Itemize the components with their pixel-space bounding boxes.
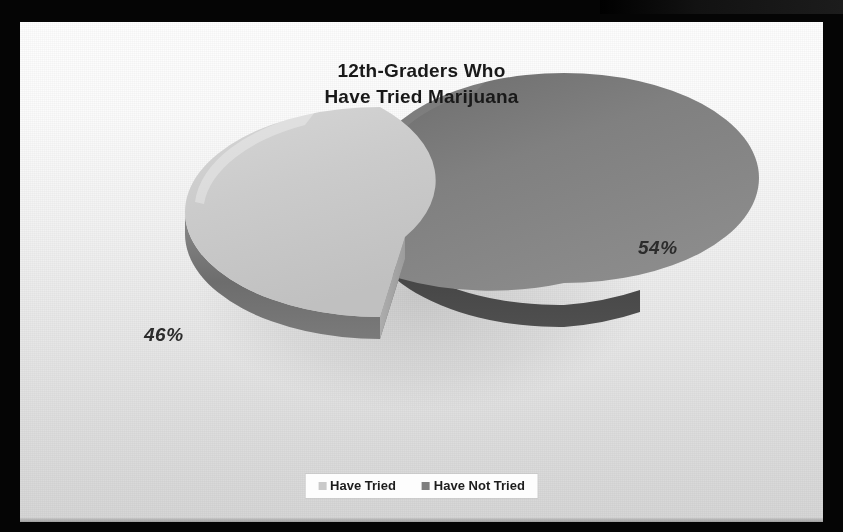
legend-item-have-tried[interactable]: Have Tried [318, 478, 396, 493]
legend-label-have-tried: Have Tried [330, 478, 396, 493]
legend-swatch-icon-have-not-tried [422, 482, 430, 490]
pie-label-54-percent: 54% [638, 237, 678, 259]
legend-item-have-not-tried[interactable]: Have Not Tried [422, 478, 525, 493]
chart-legend: Have Tried Have Not Tried [305, 474, 538, 498]
chart-slide: 12th-Graders Who Have Tried Marijuana [20, 22, 823, 522]
slide-bottom-edge [20, 518, 823, 522]
legend-label-have-not-tried: Have Not Tried [434, 478, 525, 493]
chart-title: 12th-Graders Who Have Tried Marijuana [20, 58, 823, 110]
pie-label-46-percent: 46% [144, 324, 184, 346]
legend-swatch-icon-have-tried [318, 482, 326, 490]
frame-sheen [600, 0, 843, 14]
screenshot-frame: 12th-Graders Who Have Tried Marijuana [0, 0, 843, 532]
